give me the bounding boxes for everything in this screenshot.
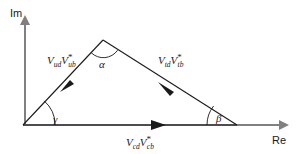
unitarity-triangle-figure: Im Re [0, 0, 301, 154]
left-edge-arrowhead [60, 80, 74, 92]
beta-arc [207, 106, 214, 125]
right-side-sub2: tb [178, 60, 184, 69]
diagram-canvas: Im Re [0, 0, 301, 154]
right-side-label: VtdV*tb [158, 52, 184, 68]
bottom-edge-arrowhead [151, 120, 166, 130]
alpha-arc [91, 50, 118, 57]
bottom-side-sub2: cb [147, 142, 154, 151]
edge-direction-arrows [60, 80, 174, 130]
angle-labels: α γ β [53, 58, 222, 125]
bottom-side-label: VcdV*cb [126, 134, 154, 150]
alpha-label: α [99, 58, 105, 70]
side-labels: VudV*ub VtdV*tb VcdV*cb [47, 52, 184, 150]
left-side-label: VudV*ub [47, 52, 76, 68]
imaginary-axis: Im [10, 7, 25, 125]
beta-label: β [215, 112, 222, 124]
gamma-label: γ [53, 113, 58, 125]
imaginary-axis-label: Im [10, 7, 22, 19]
real-axis-label: Re [272, 134, 286, 146]
left-side-sub2: ub [68, 60, 76, 69]
